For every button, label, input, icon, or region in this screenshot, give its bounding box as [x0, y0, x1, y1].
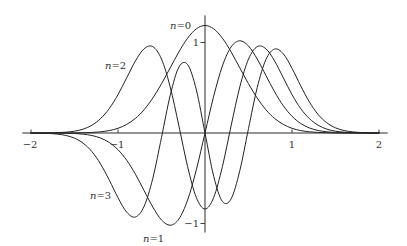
x-tick-label: −1 [110, 139, 125, 150]
y-tick-label: 1 [193, 37, 199, 48]
chart: −2 −1 1 2 1 −1 n=0 n=2 n=3 n=1 [0, 0, 407, 246]
curve-label-n1: n=1 [143, 233, 164, 244]
curve-label-n0: n=0 [170, 20, 191, 31]
x-tick-label: −2 [23, 139, 38, 150]
x-tick-label: 1 [289, 139, 295, 150]
plot-area: −2 −1 1 2 1 −1 n=0 n=2 n=3 n=1 [0, 0, 407, 246]
curve-label-n3: n=3 [90, 190, 111, 201]
curve-label-n2: n=2 [105, 60, 126, 71]
x-tick-label: 2 [376, 139, 382, 150]
y-tick-label: −1 [184, 218, 199, 229]
